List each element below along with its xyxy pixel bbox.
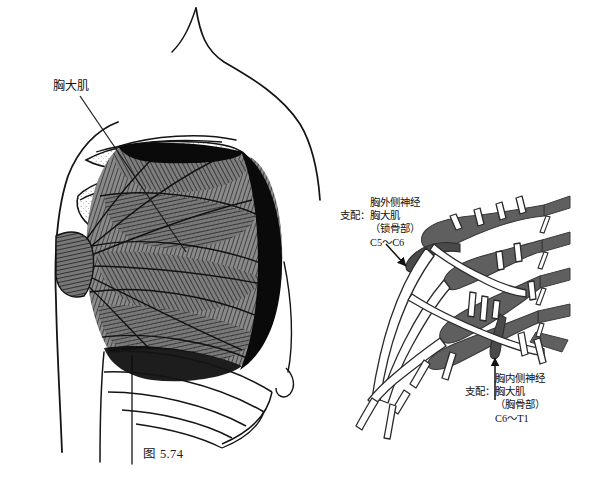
figure-caption-left: 图 5.74 (143, 443, 183, 462)
label-medial-pectoral-nerve: 胸内侧神经 支配：胸大肌 （胸骨部） C6～T1 (465, 372, 545, 425)
figure-page: 胸大肌 图 5.74 (0, 0, 613, 487)
medial-innervates-prefix: 支配： (465, 386, 495, 397)
figure-5-74: 胸大肌 图 5.74 (0, 0, 330, 487)
label-lateral-pectoral-nerve: 胸外侧神经 支配：胸大肌 （锁骨部） C5～C6 (340, 196, 420, 249)
muscle-insertion-band (56, 232, 94, 297)
medial-nerve-name: 胸内侧神经 (465, 372, 545, 385)
medial-nerve-part: （胸骨部） (465, 398, 545, 411)
lateral-nerve-name: 胸外侧神经 (340, 196, 420, 209)
lateral-nerve-innervation: 支配：胸大肌 (340, 209, 420, 222)
lateral-nerve-roots: C5～C6 (340, 236, 420, 249)
lateral-innervates-muscle: 胸大肌 (370, 210, 400, 221)
label-pectoralis-major: 胸大肌 (53, 80, 89, 94)
medial-nerve-innervation: 支配：胸大肌 (465, 385, 545, 398)
medial-innervates-muscle: 胸大肌 (495, 386, 525, 397)
lateral-nerve-part: （锁骨部） (340, 222, 420, 235)
medial-nerve-roots: C6～T1 (465, 412, 545, 425)
nerve-roots (530, 196, 570, 352)
lateral-innervates-prefix: 支配： (340, 210, 370, 221)
